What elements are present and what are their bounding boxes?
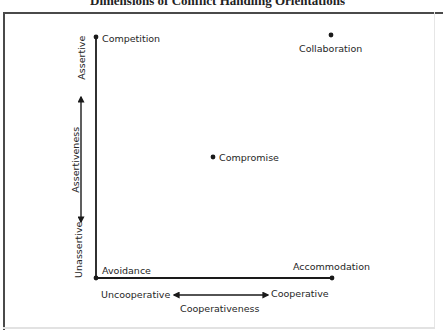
- x-axis-name: Cooperativeness: [180, 304, 259, 314]
- y-axis-high-label: Assertive: [77, 28, 87, 88]
- competition-point: [94, 35, 99, 40]
- y-axis-low-label: Unassertive: [74, 215, 84, 285]
- avoidance-label: Avoidance: [102, 266, 151, 276]
- compromise-label: Compromise: [219, 153, 279, 163]
- accommodation-label: Accommodation: [293, 262, 370, 272]
- avoidance-point: [94, 276, 99, 281]
- collaboration-label: Collaboration: [299, 44, 362, 54]
- compromise-point: [211, 155, 216, 160]
- x-axis-high-label: Cooperative: [271, 289, 329, 299]
- collaboration-point: [329, 33, 334, 38]
- accommodation-point: [330, 276, 335, 281]
- x-axis-low-label: Uncooperative: [101, 290, 170, 300]
- y-axis-name: Assertiveness: [71, 120, 81, 200]
- competition-label: Competition: [102, 34, 160, 44]
